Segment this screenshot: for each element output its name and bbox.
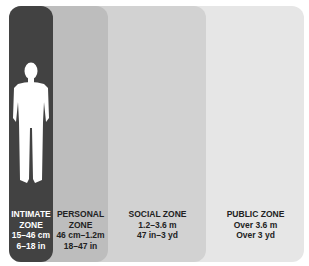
social-zone-title: SOCIAL ZONE: [108, 209, 207, 220]
public-zone-label: PUBLIC ZONE Over 3.6 m Over 3 yd: [207, 209, 304, 241]
intimate-zone-imperial: 6–18 in: [9, 241, 53, 252]
personal-zone-title-2: ZONE: [53, 220, 108, 231]
personal-zone-label: PERSONAL ZONE 46 cm–1.2m 18–47 in: [53, 209, 108, 251]
social-zone-metric: 1.2–3.6 m: [108, 220, 207, 231]
personal-zone-title: PERSONAL: [53, 209, 108, 220]
intimate-zone-title-2: ZONE: [9, 220, 53, 231]
personal-zone-metric: 46 cm–1.2m: [53, 230, 108, 241]
public-zone-title: PUBLIC ZONE: [207, 209, 304, 220]
personal-zone-imperial: 18–47 in: [53, 241, 108, 252]
public-zone-metric: Over 3.6 m: [207, 220, 304, 231]
intimate-zone-label: INTIMATE ZONE 15–46 cm 6–18 in: [9, 209, 53, 251]
social-zone-label: SOCIAL ZONE 1.2–3.6 m 47 in–3 yd: [108, 209, 207, 241]
intimate-zone-metric: 15–46 cm: [9, 230, 53, 241]
public-zone-imperial: Over 3 yd: [207, 230, 304, 241]
intimate-zone-title: INTIMATE: [9, 209, 53, 220]
person-silhouette-icon: [11, 62, 51, 184]
social-zone-imperial: 47 in–3 yd: [108, 230, 207, 241]
